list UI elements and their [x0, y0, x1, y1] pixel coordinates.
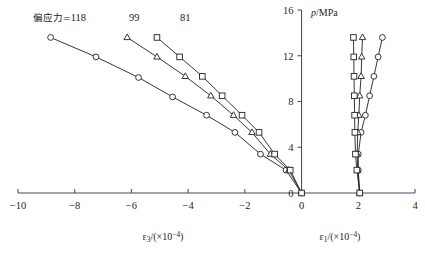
x-axis-tick-label: −4	[183, 200, 195, 211]
data-point-square-marker	[354, 167, 360, 173]
data-point-triangle-marker	[154, 53, 160, 59]
series-deviator-stress-81-lateral	[154, 35, 304, 196]
y-axis-tick-label: 16	[283, 5, 294, 16]
x-axis-tick-label: −2	[239, 200, 250, 211]
y-axis-tick-label: 12	[283, 51, 294, 62]
data-point-circle-marker	[136, 75, 142, 81]
data-point-square-marker	[351, 35, 357, 41]
y-axis-tick-label: 8	[288, 96, 293, 107]
series-deviator-stress-99-lateral	[124, 34, 305, 195]
data-point-square-marker	[353, 151, 359, 157]
data-point-square-marker	[352, 93, 358, 99]
x-axis-title-right: ε1/(×10−4)	[320, 230, 361, 244]
data-point-triangle-marker	[358, 53, 364, 59]
data-point-circle-marker	[48, 35, 54, 41]
data-point-triangle-marker	[358, 73, 364, 79]
data-point-square-marker	[177, 54, 183, 60]
data-point-circle-marker	[258, 151, 264, 157]
data-point-circle-marker	[371, 73, 377, 79]
x-axis-tick-label: 2	[356, 200, 361, 211]
data-point-circle-marker	[93, 54, 99, 60]
svg-text:ε3/(×10−4): ε3/(×10−4)	[143, 230, 184, 244]
data-series-group	[48, 34, 386, 196]
series-label-99: 99	[129, 12, 140, 23]
x-axis-tick-label: 0	[299, 200, 304, 211]
data-point-circle-marker	[170, 94, 176, 100]
axes-group: −10−8−6−4−20240481216	[10, 5, 419, 211]
data-point-square-marker	[256, 130, 262, 136]
x-axis-title-left: ε3/(×10−4)	[143, 230, 184, 244]
data-point-square-marker	[287, 167, 293, 173]
data-point-square-marker	[219, 93, 225, 99]
data-point-triangle-marker	[359, 34, 365, 40]
data-point-square-marker	[357, 190, 363, 196]
data-point-square-marker	[239, 112, 245, 118]
data-point-circle-marker	[379, 35, 385, 41]
y-axis-tick-label: 4	[288, 142, 294, 153]
strain-pressure-chart: −10−8−6−4−20240481216 偏应力=1189981 ε3/(×1…	[0, 0, 425, 256]
x-axis-tick-label: −10	[10, 200, 26, 211]
series-label-81: 81	[180, 12, 191, 23]
data-point-square-marker	[272, 151, 278, 157]
data-point-square-marker	[200, 74, 206, 80]
data-point-triangle-marker	[230, 112, 236, 118]
data-point-triangle-marker	[208, 92, 214, 98]
data-point-triangle-marker	[182, 73, 188, 79]
data-point-square-marker	[154, 35, 160, 41]
series-line	[157, 37, 302, 193]
x-axis-tick-label: 4	[412, 200, 418, 211]
data-point-square-marker	[351, 54, 357, 60]
data-point-square-marker	[352, 130, 358, 136]
data-point-triangle-marker	[124, 34, 130, 40]
y-axis-title: p/MPa	[310, 7, 338, 18]
x-axis-tick-label: −8	[69, 200, 80, 211]
data-point-square-marker	[352, 112, 358, 118]
y-axis-tick-label: 0	[288, 188, 293, 199]
data-point-circle-marker	[362, 112, 368, 118]
data-point-square-marker	[351, 74, 357, 80]
series-line	[51, 37, 302, 193]
data-point-circle-marker	[375, 54, 381, 60]
data-point-circle-marker	[367, 93, 373, 99]
chart-container: −10−8−6−4−20240481216 偏应力=1189981 ε3/(×1…	[0, 0, 425, 256]
data-point-circle-marker	[204, 112, 210, 118]
series-deviator-stress-118-lateral	[48, 35, 305, 196]
data-point-square-marker	[299, 190, 305, 196]
annotation-labels-group: 偏应力=1189981	[33, 12, 191, 23]
svg-text:ε1/(×10−4): ε1/(×10−4)	[320, 230, 361, 244]
svg-text:p/MPa: p/MPa	[310, 7, 338, 18]
series-label-118: 偏应力=118	[33, 12, 86, 23]
series-line	[127, 37, 301, 193]
data-point-circle-marker	[232, 129, 238, 135]
x-axis-tick-label: −6	[126, 200, 137, 211]
